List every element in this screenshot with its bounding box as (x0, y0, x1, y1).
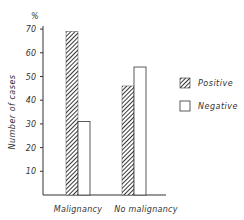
category-label: Malignancy (54, 205, 103, 214)
y-tick-label: 50 (26, 73, 36, 82)
y-tick-label: 30 (26, 120, 36, 129)
legend-label-positive: Positive (198, 79, 233, 88)
y-ticks: 10203040506070 (26, 25, 43, 176)
y-tick-label: 60 (26, 49, 36, 58)
bar-no-malignancy-negative (134, 67, 146, 195)
legend-swatch-positive (180, 78, 190, 88)
y-axis-unit: % (31, 12, 39, 21)
y-tick-label: 70 (26, 25, 36, 34)
y-tick-label: 20 (26, 144, 36, 153)
legend-label-negative: Negative (198, 102, 238, 111)
bar-no-malignancy-positive (122, 86, 134, 195)
bar-malignancy-negative (78, 122, 90, 195)
legend: Positive Negative (180, 78, 238, 111)
bar-chart: % Number of cases 10203040506070 Maligna… (0, 0, 244, 220)
y-tick-label: 40 (26, 96, 36, 105)
legend-swatch-negative (180, 101, 190, 111)
bars (66, 31, 146, 195)
axes (43, 26, 166, 195)
y-axis-title: Number of cases (8, 75, 17, 150)
y-tick-label: 10 (26, 167, 36, 176)
category-label: No malignancy (114, 205, 178, 214)
category-labels: MalignancyNo malignancy (54, 205, 178, 214)
bar-malignancy-positive (66, 31, 78, 195)
